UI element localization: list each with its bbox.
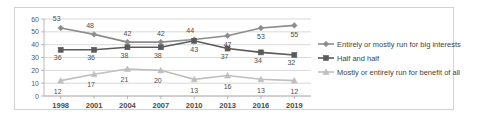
square-marker-icon xyxy=(258,50,263,55)
data-point-label: 53 xyxy=(257,33,265,40)
data-point-label: 34 xyxy=(254,57,262,64)
square-marker-icon xyxy=(58,47,63,52)
data-point-label: 55 xyxy=(290,31,298,38)
chart-container: 0102030405060 19982001200420072010201320… xyxy=(0,0,489,125)
x-category-label: 2013 xyxy=(219,101,236,110)
square-marker-icon xyxy=(192,38,197,43)
data-point-label: 38 xyxy=(154,52,162,59)
legend-label: Mostly or entirely run for benefit of al… xyxy=(337,68,460,77)
legend-item[interactable]: Mostly or entirely run for benefit of al… xyxy=(318,68,460,77)
data-point-label: 21 xyxy=(121,76,129,83)
square-marker-icon xyxy=(324,56,329,61)
x-category-label: 2004 xyxy=(119,101,137,110)
data-point-label: 20 xyxy=(154,77,162,84)
line-chart: 0102030405060 19982001200420072010201320… xyxy=(0,0,489,125)
data-point-label: 32 xyxy=(287,59,295,66)
diamond-marker-icon xyxy=(292,23,298,29)
legend-label: Entirely or mostly run for big interests xyxy=(337,40,461,49)
x-category-label: 1998 xyxy=(52,101,69,110)
y-axis-tick-labels: 0102030405060 xyxy=(31,16,39,100)
data-point-label: 16 xyxy=(224,83,232,90)
y-tick-label: 50 xyxy=(31,28,39,35)
data-point-label: 12 xyxy=(290,88,298,95)
data-point-label: 42 xyxy=(124,30,132,37)
data-point-label: 44 xyxy=(186,27,194,34)
diamond-marker-icon xyxy=(58,25,64,31)
plot-wrapper: 0102030405060 19982001200420072010201320… xyxy=(0,0,489,125)
diamond-marker-icon xyxy=(91,32,97,38)
data-point-label: 53 xyxy=(53,15,61,22)
x-category-label: 2010 xyxy=(186,101,203,110)
data-point-label: 43 xyxy=(190,46,198,53)
data-point-label: 13 xyxy=(190,87,198,94)
square-marker-icon xyxy=(92,47,97,52)
data-point-label: 48 xyxy=(86,22,94,29)
y-tick-label: 0 xyxy=(35,93,39,100)
diamond-marker-icon xyxy=(258,25,264,31)
square-marker-icon xyxy=(125,45,130,50)
legend-item[interactable]: Half and half xyxy=(318,54,380,63)
y-tick-label: 30 xyxy=(31,54,39,61)
data-point-label: 17 xyxy=(87,81,95,88)
square-marker-icon xyxy=(292,52,297,57)
y-tick-label: 60 xyxy=(31,16,39,23)
legend-item[interactable]: Entirely or mostly run for big interests xyxy=(318,40,461,49)
diamond-marker-icon xyxy=(323,41,329,47)
y-tick-label: 40 xyxy=(31,41,39,48)
legend-label: Half and half xyxy=(337,54,380,63)
data-point-label: 42 xyxy=(157,30,165,37)
y-tick-label: 20 xyxy=(31,67,39,74)
square-marker-icon xyxy=(158,45,163,50)
diamond-marker-icon xyxy=(225,33,231,39)
x-category-label: 2007 xyxy=(152,101,169,110)
y-tick-label: 10 xyxy=(31,80,39,87)
diamond-marker-icon xyxy=(158,39,164,45)
data-point-label: 38 xyxy=(121,52,129,59)
data-point-label: 47 xyxy=(224,41,232,48)
data-point-label: 12 xyxy=(54,88,62,95)
x-category-label: 2016 xyxy=(253,101,270,110)
gridlines xyxy=(41,19,311,96)
x-category-label: 2019 xyxy=(286,101,303,110)
data-point-label: 13 xyxy=(257,87,265,94)
chart-legend: Entirely or mostly run for big interests… xyxy=(318,40,461,77)
data-point-label: 36 xyxy=(54,54,62,61)
x-axis-category-labels: 19982001200420072010201320162019 xyxy=(52,96,302,110)
data-point-label: 37 xyxy=(221,53,229,60)
diamond-marker-icon xyxy=(125,39,131,45)
data-point-label: 36 xyxy=(87,54,95,61)
x-category-label: 2001 xyxy=(86,101,103,110)
